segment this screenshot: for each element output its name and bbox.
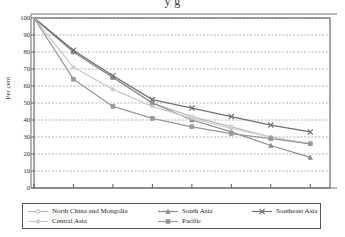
legend-marker-icon	[157, 207, 179, 216]
svg-text:70: 70	[24, 65, 31, 72]
plot-area: Per cent 0102030405060708090100 19501960…	[0, 12, 345, 194]
x-tick-marks	[34, 184, 310, 188]
data-series-layer	[34, 18, 313, 159]
grid-lines	[34, 18, 330, 188]
legend-item-southeast-asia[interactable]: Southeast Asia	[251, 207, 317, 216]
svg-text:2020: 2020	[304, 192, 317, 194]
svg-text:80: 80	[24, 48, 31, 55]
series-pacific	[34, 18, 312, 146]
series-southeast-asia	[34, 18, 313, 135]
svg-text:40: 40	[24, 116, 31, 123]
series-north-china-and-mongolia	[34, 18, 312, 146]
legend-item-central-asia[interactable]: Central Asia	[27, 217, 155, 226]
legend-marker-icon	[251, 207, 273, 216]
legend-label: North China and Mongolia	[52, 207, 128, 216]
legend-item-north-china-and-mongolia[interactable]: North China and Mongolia	[27, 207, 155, 216]
y-axis-label: Per cent	[4, 89, 12, 100]
legend-marker-icon	[157, 217, 179, 226]
chart-figure: y g Per cent 0102030405060708090100 1950…	[0, 0, 345, 237]
svg-text:1980: 1980	[146, 192, 159, 194]
chart-title-text: y g	[0, 0, 345, 9]
legend-label: South Asia	[182, 207, 213, 216]
svg-text:100: 100	[20, 14, 30, 21]
svg-text:30: 30	[24, 133, 31, 140]
svg-text:1960: 1960	[67, 192, 80, 194]
svg-text:50: 50	[24, 99, 31, 106]
legend-marker-icon	[27, 217, 49, 226]
svg-text:0: 0	[27, 184, 30, 191]
legend-item-pacific[interactable]: Pacific	[157, 217, 249, 226]
svg-text:10: 10	[24, 167, 31, 174]
svg-text:20: 20	[24, 150, 31, 157]
svg-text:60: 60	[24, 82, 31, 89]
svg-text:2010: 2010	[264, 192, 277, 194]
legend-item-south-asia[interactable]: South Asia	[157, 207, 249, 216]
legend-label: Pacific	[182, 217, 201, 226]
svg-text:2000: 2000	[225, 192, 238, 194]
x-tick-labels: 19501960197019801990200020102020	[28, 192, 317, 194]
axis-lines	[31, 14, 337, 188]
chart-legend: North China and MongoliaSouth AsiaSouthe…	[22, 203, 321, 229]
svg-text:1970: 1970	[106, 192, 119, 194]
svg-text:1950: 1950	[28, 192, 41, 194]
legend-marker-icon	[27, 207, 49, 216]
svg-text:1990: 1990	[185, 192, 198, 194]
legend-label: Southeast Asia	[276, 207, 317, 216]
svg-text:90: 90	[24, 31, 31, 38]
legend-label: Central Asia	[52, 217, 87, 226]
line-chart-svg: 0102030405060708090100 19501960197019801…	[0, 12, 345, 194]
y-tick-labels: 0102030405060708090100	[20, 14, 34, 191]
